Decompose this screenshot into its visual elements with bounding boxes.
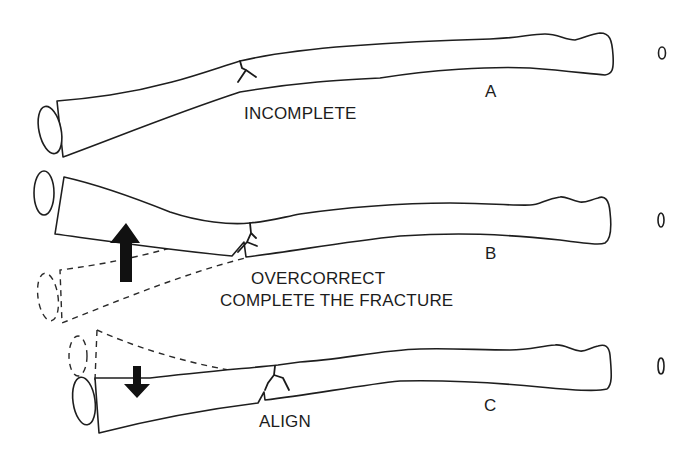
panel-b-caption-line1: OVERCORRECT [251,270,385,287]
panel-b-letter: B [485,245,497,262]
diagram-artwork [0,0,697,455]
panel-c-caption: ALIGN [259,413,311,430]
panel-c-bone [70,345,664,433]
panel-c-letter: C [484,397,496,414]
panel-a-caption: INCOMPLETE [244,105,357,122]
panel-b-caption-line2: COMPLETE THE FRACTURE [220,292,453,309]
panel-a-letter: A [485,83,497,100]
fracture-reduction-diagram: INCOMPLETE A B OVERCORRECT COMPLETE THE … [0,0,697,455]
panel-a-bone [34,33,665,157]
